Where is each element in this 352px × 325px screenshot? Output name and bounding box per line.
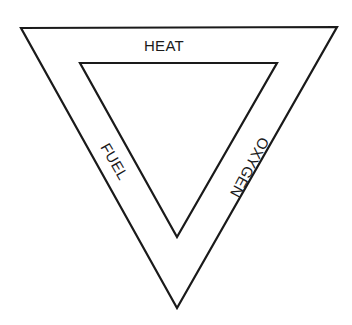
heat-label: HEAT	[144, 37, 184, 54]
fire-triangle-diagram: HEAT FUEL OXYGEN	[0, 0, 352, 325]
outer-triangle	[21, 27, 337, 308]
oxygen-label: OXYGEN	[227, 134, 273, 200]
